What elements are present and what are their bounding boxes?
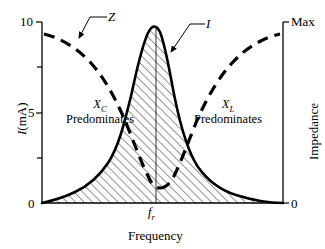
i-callout-leader	[171, 24, 205, 52]
z-callout-leader	[79, 17, 107, 38]
xc-predominates-text: Predominates	[66, 112, 134, 126]
y-axis-title-right: Impedance	[306, 103, 322, 160]
y-tick-label-10: 10	[20, 14, 33, 30]
chart-canvas	[0, 0, 325, 249]
resonance-frequency-label: fr	[148, 205, 155, 222]
current-curve-label: I	[206, 16, 210, 32]
impedance-curve-label: Z	[108, 9, 115, 25]
x-axis-title: Frequency	[128, 228, 183, 244]
y-right-tick-label-max: Max	[291, 14, 315, 30]
y-right-tick-label-0: 0	[291, 196, 298, 212]
xc-symbol: X	[93, 97, 101, 111]
y-axis-title-left: I(mA)	[14, 102, 30, 135]
xc-predominates-annotation: XC Predominates	[54, 98, 146, 126]
xl-predominates-annotation: XL Predominates	[182, 98, 274, 126]
y-tick-label-0: 0	[28, 196, 35, 212]
xl-predominates-text: Predominates	[194, 112, 262, 126]
resonance-chart: 10 5 0 Max 0 I(mA) Impedance Frequency f…	[0, 0, 325, 249]
